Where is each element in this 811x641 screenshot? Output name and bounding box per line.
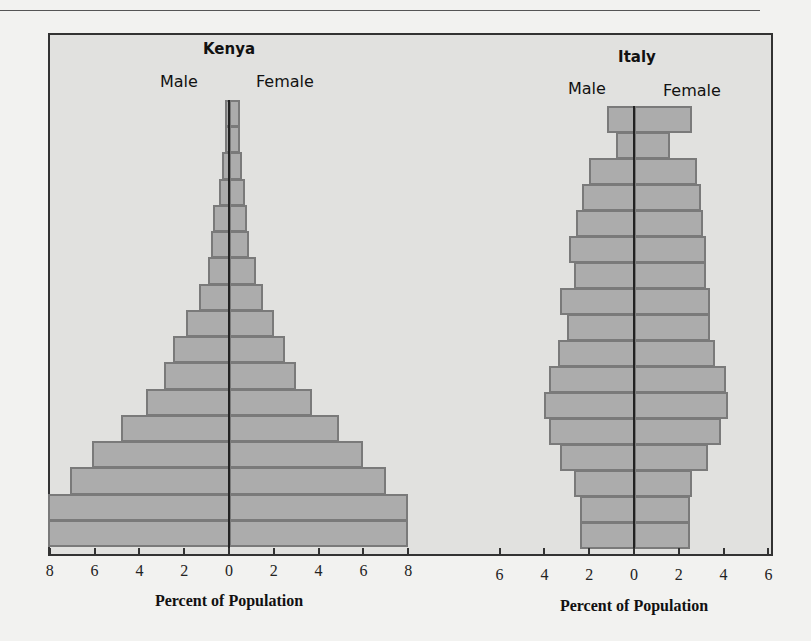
bar-female xyxy=(634,366,726,393)
bar-female xyxy=(634,470,692,497)
bar-female xyxy=(634,496,690,523)
kenya-xlabel: Percent of Population xyxy=(155,592,303,610)
bar-female xyxy=(634,444,708,471)
x-tick xyxy=(543,548,545,556)
x-tick-label: 8 xyxy=(404,562,412,580)
bar-female xyxy=(229,284,263,311)
bar-female xyxy=(229,441,363,468)
x-tick xyxy=(723,548,725,556)
bar-male xyxy=(146,389,230,416)
bar-female xyxy=(229,257,256,284)
top-rule xyxy=(0,10,760,11)
bar-male xyxy=(549,366,635,393)
x-tick-label: 6 xyxy=(359,562,367,580)
x-tick-label: 6 xyxy=(496,566,504,584)
bar-female xyxy=(634,340,715,367)
bar-female xyxy=(229,179,245,206)
x-tick xyxy=(767,548,769,556)
x-tick-label: 2 xyxy=(180,562,188,580)
bar-female xyxy=(634,314,710,341)
x-tick xyxy=(183,548,185,556)
x-tick xyxy=(273,548,275,556)
bar-female xyxy=(229,362,296,389)
bar-male xyxy=(48,494,230,521)
x-tick xyxy=(228,548,230,556)
bar-male xyxy=(92,441,230,468)
italy-male-label: Male xyxy=(568,79,606,98)
bar-female xyxy=(229,520,408,547)
bar-female xyxy=(634,158,697,185)
x-tick-label: 4 xyxy=(315,562,323,580)
bar-male xyxy=(607,106,635,133)
bar-female xyxy=(634,184,701,211)
bar-male xyxy=(70,467,230,494)
bar-female xyxy=(634,288,710,315)
bar-female xyxy=(229,494,408,521)
bar-male xyxy=(589,158,635,185)
x-tick-label: 6 xyxy=(91,562,99,580)
bar-male xyxy=(549,418,635,445)
bar-male xyxy=(544,392,635,419)
bar-male xyxy=(574,262,635,289)
x-tick xyxy=(49,548,51,556)
bar-female xyxy=(229,336,285,363)
bar-male xyxy=(569,236,635,263)
x-tick xyxy=(407,548,409,556)
x-tick-label: 4 xyxy=(720,566,728,584)
x-tick xyxy=(362,548,364,556)
x-tick-label: 8 xyxy=(46,562,54,580)
bar-female xyxy=(229,415,339,442)
x-tick xyxy=(678,548,680,556)
x-tick-label: 0 xyxy=(630,566,638,584)
bar-male xyxy=(576,210,635,237)
bar-male xyxy=(567,314,635,341)
kenya-female-label: Female xyxy=(256,72,314,91)
bar-male xyxy=(580,522,635,549)
bar-female xyxy=(634,392,728,419)
italy-female-label: Female xyxy=(663,81,721,100)
bar-female xyxy=(229,389,312,416)
bar-female xyxy=(229,310,274,337)
center-axis xyxy=(633,106,635,556)
bar-female xyxy=(229,231,249,258)
italy-xlabel: Percent of Population xyxy=(560,597,708,615)
x-tick-label: 6 xyxy=(764,566,772,584)
bar-female xyxy=(229,205,247,232)
bar-male xyxy=(560,444,635,471)
x-tick xyxy=(633,548,635,556)
x-tick-label: 2 xyxy=(270,562,278,580)
x-tick-label: 2 xyxy=(585,566,593,584)
bar-male xyxy=(580,496,635,523)
x-tick-label: 4 xyxy=(540,566,548,584)
bar-female xyxy=(229,467,386,494)
x-tick-label: 2 xyxy=(675,566,683,584)
bar-female xyxy=(634,522,690,549)
bar-male xyxy=(121,415,230,442)
bar-male xyxy=(186,310,230,337)
x-tick-label: 4 xyxy=(135,562,143,580)
x-tick xyxy=(588,548,590,556)
bar-male xyxy=(173,336,230,363)
x-tick-label: 0 xyxy=(225,562,233,580)
bar-male xyxy=(574,470,635,497)
bar-male xyxy=(164,362,230,389)
bar-female xyxy=(634,132,670,159)
bar-male xyxy=(558,340,635,367)
bar-female xyxy=(634,418,721,445)
kenya-title: Kenya xyxy=(203,40,255,58)
x-tick xyxy=(138,548,140,556)
bar-male xyxy=(199,284,230,311)
kenya-male-label: Male xyxy=(160,72,198,91)
x-tick xyxy=(499,548,501,556)
bar-female xyxy=(229,100,240,127)
bar-female xyxy=(634,106,692,133)
bar-female xyxy=(634,210,703,237)
bar-male xyxy=(560,288,635,315)
bar-female xyxy=(229,126,240,153)
bar-female xyxy=(634,262,706,289)
bar-female xyxy=(634,236,706,263)
bar-male xyxy=(48,520,230,547)
x-tick xyxy=(94,548,96,556)
center-axis xyxy=(228,100,230,556)
bar-male xyxy=(582,184,635,211)
